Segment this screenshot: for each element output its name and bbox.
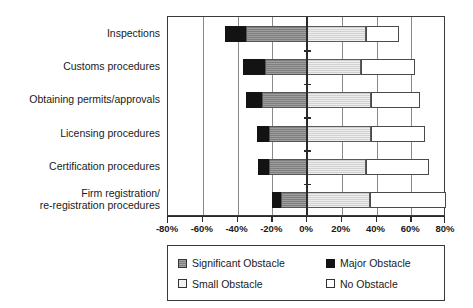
bar-segment-major — [246, 92, 262, 108]
x-axis-tick--60 — [202, 217, 203, 222]
legend-swatch-significant-icon — [178, 259, 187, 268]
diverging-stacked-bar-chart: InspectionsCustoms proceduresObtaining p… — [0, 0, 473, 308]
plot-area — [167, 16, 445, 216]
bar-segment-none — [371, 126, 425, 142]
x-axis-tick--20 — [271, 217, 272, 222]
zero-axis-tick — [304, 117, 311, 119]
bar-segment-significant — [281, 192, 307, 208]
gridline-40 — [377, 17, 378, 215]
legend-swatch-none-icon — [326, 279, 335, 288]
bar-segment-none — [366, 159, 429, 175]
bar-segment-small — [307, 126, 371, 142]
category-label: Licensing procedures — [0, 127, 160, 139]
zero-axis-tick — [304, 84, 311, 86]
zero-axis-tick — [304, 184, 311, 186]
bar-segment-major — [243, 59, 266, 75]
legend-item-none[interactable]: No Obstacle — [308, 278, 438, 290]
zero-axis-tick — [304, 50, 311, 52]
x-axis-tick-label: 0% — [299, 223, 313, 234]
category-label: Obtaining permits/approvals — [0, 93, 160, 105]
x-axis-tick--40 — [237, 217, 238, 222]
x-axis-tick-label: 20% — [331, 223, 350, 234]
bar-segment-major — [257, 126, 269, 142]
bar-segment-small — [307, 92, 371, 108]
legend-item-major[interactable]: Major Obstacle — [308, 257, 438, 269]
gridline-20 — [342, 17, 343, 215]
bar-segment-significant — [269, 126, 307, 142]
x-axis-tick-0 — [306, 217, 307, 222]
legend-label: Significant Obstacle — [192, 257, 285, 269]
bar-segment-major — [272, 192, 281, 208]
bar-segment-small — [307, 26, 366, 42]
bar-segment-significant — [262, 92, 307, 108]
legend-label: No Obstacle — [340, 278, 398, 290]
x-axis-tick-labels: -80%-60%-40%-20%0%20%40%60%80% — [167, 223, 445, 237]
category-label: Firm registration/ re-registration proce… — [0, 187, 160, 211]
x-axis-tick-label: -60% — [191, 223, 213, 234]
gridline-60 — [411, 17, 412, 215]
x-axis-tick-60 — [410, 217, 411, 222]
x-axis-tick-label: 60% — [401, 223, 420, 234]
category-label: Certification procedures — [0, 160, 160, 172]
x-axis-tick-label: -40% — [225, 223, 247, 234]
x-axis — [167, 216, 445, 222]
bar-segment-significant — [246, 26, 307, 42]
zero-axis-line — [306, 17, 307, 215]
legend-item-small[interactable]: Small Obstacle — [178, 278, 308, 290]
legend-label: Small Obstacle — [192, 278, 263, 290]
x-axis-tick-label: -20% — [260, 223, 282, 234]
bar-segment-none — [371, 92, 420, 108]
legend-swatch-small-icon — [178, 279, 187, 288]
chart-legend: Significant ObstacleMajor ObstacleSmall … — [167, 245, 445, 301]
x-axis-tick-label: 40% — [366, 223, 385, 234]
gridline--60 — [203, 17, 204, 215]
category-axis-labels: InspectionsCustoms proceduresObtaining p… — [0, 16, 164, 216]
bar-segment-small — [307, 59, 361, 75]
x-axis-tick-label: 80% — [435, 223, 454, 234]
bar-segment-none — [361, 59, 415, 75]
gridline--40 — [238, 17, 239, 215]
x-axis-tick-40 — [376, 217, 377, 222]
x-axis-tick-20 — [341, 217, 342, 222]
legend-label: Major Obstacle — [340, 257, 411, 269]
bar-segment-small — [307, 159, 366, 175]
bar-segment-none — [370, 192, 446, 208]
category-label: Inspections — [0, 27, 160, 39]
bar-segment-significant — [265, 59, 307, 75]
bar-segment-none — [366, 26, 399, 42]
zero-axis-tick — [304, 150, 311, 152]
bar-segment-major — [225, 26, 246, 42]
x-axis-tick-label: -80% — [156, 223, 178, 234]
legend-grid: Significant ObstacleMajor ObstacleSmall … — [178, 253, 438, 294]
legend-item-significant[interactable]: Significant Obstacle — [178, 257, 308, 269]
category-label: Customs procedures — [0, 60, 160, 72]
bar-segment-major — [258, 159, 268, 175]
bar-segment-small — [307, 192, 370, 208]
bar-segment-significant — [269, 159, 307, 175]
legend-swatch-major-icon — [326, 259, 335, 268]
gridline--20 — [272, 17, 273, 215]
